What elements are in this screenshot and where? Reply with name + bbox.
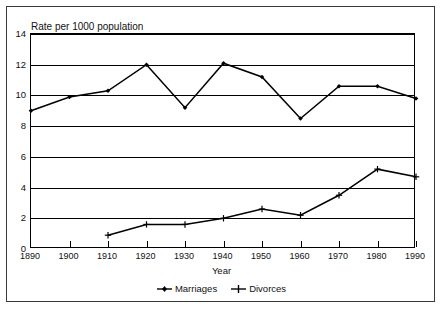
chart-legend: Marriages Divorces bbox=[0, 283, 443, 294]
chart-title: Rate per 1000 population bbox=[31, 21, 143, 32]
x-axis-tick-label: 1900 bbox=[58, 251, 78, 261]
legend-item-divorces: Divorces bbox=[231, 283, 286, 294]
data-point-marker bbox=[375, 84, 380, 89]
x-axis-tick-mark bbox=[416, 241, 417, 247]
y-axis-tick-label: 14 bbox=[15, 28, 26, 39]
data-point-marker bbox=[143, 221, 149, 227]
data-point-marker bbox=[29, 108, 34, 113]
plot-area bbox=[30, 33, 415, 248]
legend-marker-diamond-icon bbox=[157, 284, 172, 294]
y-axis-tick-label: 2 bbox=[21, 212, 26, 223]
data-point-marker bbox=[67, 95, 72, 100]
data-point-marker bbox=[220, 215, 226, 221]
data-point-marker bbox=[105, 232, 111, 238]
data-point-marker bbox=[259, 206, 265, 212]
legend-item-marriages: Marriages bbox=[157, 283, 217, 294]
x-axis-tick-label: 1960 bbox=[289, 251, 309, 261]
x-axis-tick-label: 1890 bbox=[20, 251, 40, 261]
y-axis-tick-label: 4 bbox=[21, 181, 26, 192]
legend-marker-plus-icon bbox=[231, 284, 246, 294]
x-axis-tick-label: 1930 bbox=[174, 251, 194, 261]
y-axis-tick-label: 10 bbox=[15, 89, 26, 100]
y-axis-tick-label: 12 bbox=[15, 58, 26, 69]
y-axis-tick-label: 6 bbox=[21, 150, 26, 161]
x-axis-tick-label: 1990 bbox=[405, 251, 425, 261]
x-axis-tick-label: 1920 bbox=[135, 251, 155, 261]
chart-figure: Rate per 1000 population 02468101214 189… bbox=[0, 0, 443, 310]
x-axis-tick-label: 1980 bbox=[366, 251, 386, 261]
series-line-marriages bbox=[31, 63, 416, 118]
legend-label-marriages: Marriages bbox=[175, 283, 217, 294]
x-axis-tick-label: 1950 bbox=[251, 251, 271, 261]
legend-label-divorces: Divorces bbox=[249, 283, 286, 294]
x-axis-tick-label: 1910 bbox=[97, 251, 117, 261]
x-axis-tick-label: 1970 bbox=[328, 251, 348, 261]
series-line-divorces bbox=[108, 169, 416, 235]
x-axis-tick-label: 1940 bbox=[212, 251, 232, 261]
series-lines bbox=[31, 34, 416, 249]
x-axis-title: Year bbox=[0, 265, 443, 276]
y-axis-tick-label: 8 bbox=[21, 120, 26, 131]
data-point-marker bbox=[182, 221, 188, 227]
data-point-marker bbox=[297, 212, 303, 218]
y-axis-tick-labels: 02468101214 bbox=[6, 33, 26, 248]
